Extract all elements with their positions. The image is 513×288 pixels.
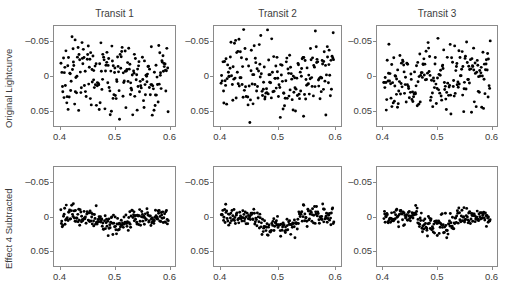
- data-points: [377, 167, 497, 266]
- y-tick-label: 0.05: [167, 106, 209, 116]
- y-tick-label: 0: [330, 71, 372, 81]
- y-tick-label: 0: [167, 71, 209, 81]
- y-tickmark: [50, 182, 53, 183]
- y-tickmark: [50, 41, 53, 42]
- figure-suptitle: [0, 0, 513, 7]
- y-tick-label: 0.05: [330, 106, 372, 116]
- y-tickmark: [373, 251, 376, 252]
- x-tick-label: 0.4: [202, 272, 238, 282]
- y-tick-label: –0.05: [7, 177, 49, 187]
- x-tickmark: [437, 267, 438, 270]
- y-tickmark: [210, 41, 213, 42]
- x-tick-label: 0.4: [202, 132, 238, 142]
- x-tick-label: 0.6: [317, 272, 353, 282]
- y-axis-label-row-2: Effect 4 Subtracted: [4, 188, 14, 269]
- y-tick-label: –0.05: [7, 36, 49, 46]
- x-tick-label: 0.5: [419, 132, 455, 142]
- x-tickmark: [382, 127, 383, 130]
- data-points: [377, 26, 497, 126]
- y-tickmark: [373, 111, 376, 112]
- x-tickmark: [60, 267, 61, 270]
- x-tickmark: [492, 127, 493, 130]
- y-tickmark: [210, 217, 213, 218]
- x-tickmark: [278, 267, 279, 270]
- scatter-panel-r2-c1: [53, 166, 176, 267]
- x-tickmark: [170, 127, 171, 130]
- x-tick-label: 0.4: [364, 272, 400, 282]
- x-tick-label: 0.5: [97, 272, 133, 282]
- y-tickmark: [373, 41, 376, 42]
- y-tickmark: [373, 76, 376, 77]
- x-tickmark: [170, 267, 171, 270]
- y-tick-label: 0: [7, 212, 49, 222]
- panel-title-transit-2: Transit 2: [213, 8, 342, 19]
- scatter-panel-r1-c2: [213, 25, 342, 127]
- scatter-panel-r1-c1: [53, 25, 176, 127]
- x-tick-label: 0.5: [260, 132, 296, 142]
- x-tickmark: [335, 127, 336, 130]
- y-tick-label: 0: [330, 212, 372, 222]
- x-tickmark: [60, 127, 61, 130]
- y-tick-label: –0.05: [167, 36, 209, 46]
- data-points: [54, 167, 175, 266]
- x-tick-label: 0.4: [42, 132, 78, 142]
- x-tick-label: 0.6: [152, 132, 188, 142]
- y-tick-label: 0.05: [7, 246, 49, 256]
- y-tickmark: [50, 111, 53, 112]
- figure-canvas: Transit 1Transit 2Transit 3Original Ligh…: [0, 0, 513, 288]
- x-tick-label: 0.4: [364, 132, 400, 142]
- y-tickmark: [210, 251, 213, 252]
- x-tick-label: 0.6: [474, 132, 510, 142]
- x-tickmark: [335, 267, 336, 270]
- y-tickmark: [50, 217, 53, 218]
- x-tick-label: 0.4: [42, 272, 78, 282]
- x-tickmark: [382, 267, 383, 270]
- y-tickmark: [210, 111, 213, 112]
- x-tickmark: [492, 267, 493, 270]
- x-tickmark: [220, 127, 221, 130]
- y-tick-label: 0.05: [167, 246, 209, 256]
- x-tick-label: 0.6: [474, 272, 510, 282]
- data-points: [214, 167, 341, 266]
- x-tick-label: 0.6: [152, 272, 188, 282]
- y-tick-label: 0: [7, 71, 49, 81]
- x-tick-label: 0.6: [317, 132, 353, 142]
- scatter-panel-r2-c3: [376, 166, 498, 267]
- y-tickmark: [373, 217, 376, 218]
- y-tick-label: –0.05: [330, 177, 372, 187]
- panel-title-transit-3: Transit 3: [376, 8, 498, 19]
- x-tickmark: [437, 127, 438, 130]
- y-tickmark: [210, 182, 213, 183]
- panel-title-transit-1: Transit 1: [53, 8, 176, 19]
- y-tickmark: [373, 182, 376, 183]
- y-tick-label: 0: [167, 212, 209, 222]
- x-tick-label: 0.5: [419, 272, 455, 282]
- scatter-panel-r1-c3: [376, 25, 498, 127]
- scatter-panel-r2-c2: [213, 166, 342, 267]
- y-tick-label: 0.05: [330, 246, 372, 256]
- x-tick-label: 0.5: [260, 272, 296, 282]
- y-tick-label: –0.05: [330, 36, 372, 46]
- y-tickmark: [50, 251, 53, 252]
- x-tickmark: [278, 127, 279, 130]
- y-tick-label: –0.05: [167, 177, 209, 187]
- x-tick-label: 0.5: [97, 132, 133, 142]
- y-tickmark: [50, 76, 53, 77]
- x-tickmark: [115, 127, 116, 130]
- x-tickmark: [115, 267, 116, 270]
- y-axis-label-row-1: Original Lightcurve: [4, 49, 14, 128]
- data-points: [54, 26, 175, 126]
- y-tick-label: 0.05: [7, 106, 49, 116]
- x-tickmark: [220, 267, 221, 270]
- data-points: [214, 26, 341, 126]
- y-tickmark: [210, 76, 213, 77]
